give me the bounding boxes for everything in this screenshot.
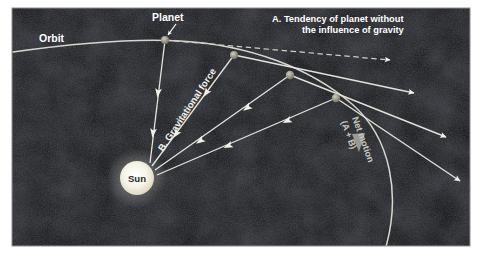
- sun-label: Sun: [128, 173, 146, 184]
- planet-dot-1: [161, 36, 169, 44]
- starfield-panel: Sun Orbit Planet A. Tendency of planet w…: [12, 8, 470, 247]
- planet-label: Planet: [152, 11, 184, 23]
- planet-dot-2: [230, 51, 238, 59]
- diagram-canvas: Sun Orbit Planet A. Tendency of planet w…: [0, 0, 483, 265]
- planet-dot-4: [332, 94, 340, 102]
- planet-dot-3: [286, 71, 294, 79]
- orbit-diagram-figure: Sun Orbit Planet A. Tendency of planet w…: [0, 0, 483, 265]
- orbit-label: Orbit: [39, 32, 65, 44]
- tendency-label-line2: the influence of gravity: [302, 25, 405, 35]
- tendency-label-line1: A. Tendency of planet without: [272, 14, 404, 24]
